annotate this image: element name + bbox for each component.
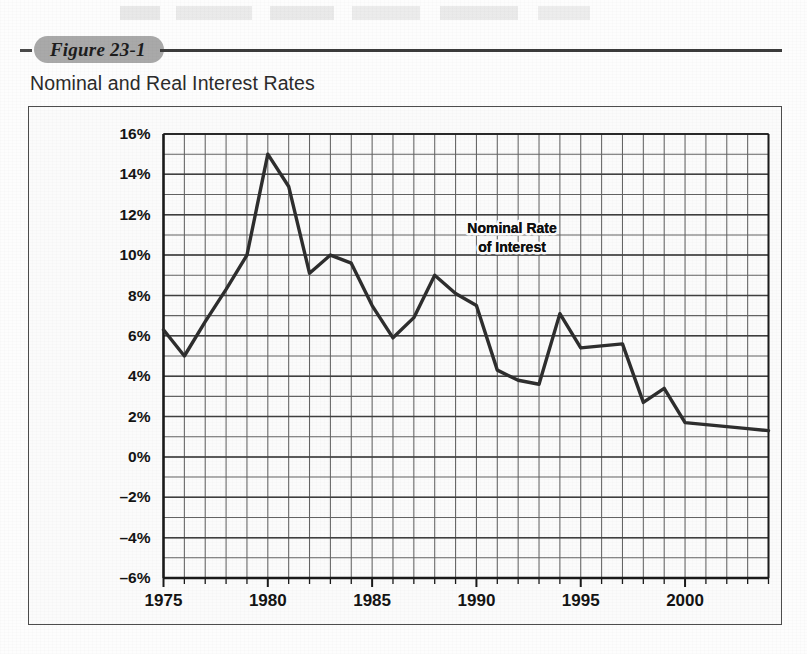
x-axis-tick-label: 1980: [249, 591, 287, 610]
x-axis-tick-label: 1995: [562, 591, 600, 610]
plot-area: 16%14%12%10%8%6%4%2%0%–2%–4%–6%197519801…: [0, 0, 807, 654]
x-axis-tick-label: 1990: [458, 591, 496, 610]
line-chart: 16%14%12%10%8%6%4%2%0%–2%–4%–6%197519801…: [0, 0, 807, 654]
y-axis-tick-label: 0%: [128, 448, 151, 465]
y-axis-tick-label: 6%: [128, 327, 151, 344]
x-axis-tick-label: 2000: [666, 591, 704, 610]
y-axis-tick-label: 12%: [119, 206, 150, 223]
y-axis-tick-label: 4%: [128, 367, 151, 384]
annotation-line-2: of Interest: [478, 239, 546, 255]
series-nominal-rate-of-interest: [164, 154, 769, 430]
y-axis-tick-label: –2%: [119, 488, 150, 505]
y-axis-tick-label: 8%: [128, 287, 151, 304]
x-axis-tick-label: 1985: [353, 591, 391, 610]
x-axis-tick-label: 1975: [145, 591, 183, 610]
series-annotation: Nominal RateNominal Rateof Interestof In…: [467, 220, 557, 255]
y-axis-tick-label: 2%: [128, 408, 151, 425]
y-axis-tick-label: –6%: [119, 569, 150, 586]
y-axis-tick-label: –4%: [119, 529, 150, 546]
chart-gridlines: [164, 134, 769, 578]
annotation-line-1: Nominal Rate: [467, 220, 557, 236]
x-axis-labels: 197519801985199019952000: [145, 591, 704, 610]
y-axis-tick-label: 16%: [119, 125, 150, 142]
y-axis-tick-label: 10%: [119, 246, 150, 263]
y-axis-labels: 16%14%12%10%8%6%4%2%0%–2%–4%–6%: [119, 125, 150, 586]
y-axis-tick-label: 14%: [119, 165, 150, 182]
x-axis-ticks: [164, 578, 769, 587]
page-root: Figure 23-1 Nominal and Real Interest Ra…: [0, 0, 807, 654]
